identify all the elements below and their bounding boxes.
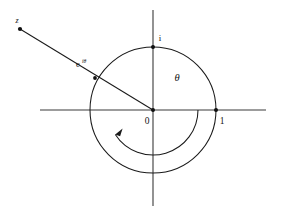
point-origin-dot (151, 108, 155, 112)
label-angle-theta: θ (174, 72, 179, 83)
complex-plane-figure-root: z e iθ i θ 0 1 (0, 0, 282, 219)
point-one-dot (214, 108, 218, 112)
label-origin: 0 (145, 116, 150, 126)
point-i-dot (151, 45, 155, 49)
label-unit-point-exponent: iθ (82, 58, 87, 64)
label-unit-real: 1 (220, 116, 225, 126)
label-unit-point-base: e (76, 59, 80, 69)
point-z-dot (18, 27, 22, 31)
point-unit-modulus-dot (93, 76, 97, 80)
complex-plane-diagram: z e iθ i θ 0 1 (0, 0, 282, 219)
